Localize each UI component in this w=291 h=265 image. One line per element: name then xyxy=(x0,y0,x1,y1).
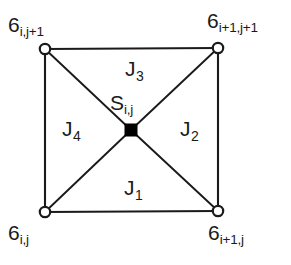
coupling-label-j4: J4 xyxy=(62,118,80,139)
node-marker-top-right xyxy=(213,43,223,53)
node-label-symbol: 6 xyxy=(8,221,20,244)
node-marker-center-spin xyxy=(125,124,137,136)
coupling-label-subscript: 3 xyxy=(136,68,144,84)
diagonal-bond-j1-center-to-bottomright xyxy=(131,130,218,211)
coupling-label-symbol: J xyxy=(125,57,136,80)
node-label-subscript: i,j xyxy=(124,102,133,117)
diagonal-bond-j2-center-to-topright xyxy=(131,48,218,130)
node-label-symbol: 6 xyxy=(208,221,220,244)
lattice-plaquette-diagram xyxy=(0,0,291,265)
coupling-label-symbol: J xyxy=(62,117,73,140)
coupling-label-j3: J3 xyxy=(125,58,143,79)
diagonal-bond-j3-topleft-to-center xyxy=(45,49,131,130)
node-label-subscript: i+1,j xyxy=(220,232,244,247)
coupling-label-j1: J1 xyxy=(124,177,142,198)
node-label-subscript: i,j xyxy=(20,232,29,247)
square-side-bottom xyxy=(45,211,218,212)
node-label-sigma-iplus1-j: 6i+1,j xyxy=(208,222,244,243)
node-label-symbol: 6 xyxy=(207,9,219,32)
node-marker-top-left xyxy=(40,44,50,54)
node-label-subscript: i,j+1 xyxy=(20,24,44,39)
coupling-label-symbol: J xyxy=(180,117,191,140)
figure-container: 6i,j+1 6i+1,j+1 6i,j 6i+1,j Si,j J3 J4 J… xyxy=(0,0,291,265)
coupling-label-subscript: 1 xyxy=(135,187,143,203)
coupling-label-j2: J2 xyxy=(180,118,198,139)
coupling-label-subscript: 4 xyxy=(73,128,81,144)
node-label-symbol: 6 xyxy=(8,13,20,36)
coupling-label-symbol: J xyxy=(124,176,135,199)
node-label-sigma-i-j: 6i,j xyxy=(8,222,29,243)
coupling-label-subscript: 2 xyxy=(191,128,199,144)
node-label-sigma-i-jplus1: 6i,j+1 xyxy=(8,14,44,35)
square-side-top xyxy=(45,48,218,49)
node-marker-bottom-left xyxy=(40,207,50,217)
node-label-subscript: i+1,j+1 xyxy=(219,20,258,35)
node-label-sigma-iplus1-jplus1: 6i+1,j+1 xyxy=(207,10,258,31)
node-marker-bottom-right xyxy=(213,206,223,216)
diagonal-bond-j4-bottomleft-to-center xyxy=(45,130,131,212)
node-label-symbol: S xyxy=(110,91,124,114)
node-label-spin-s-i-j: Si,j xyxy=(110,92,133,113)
